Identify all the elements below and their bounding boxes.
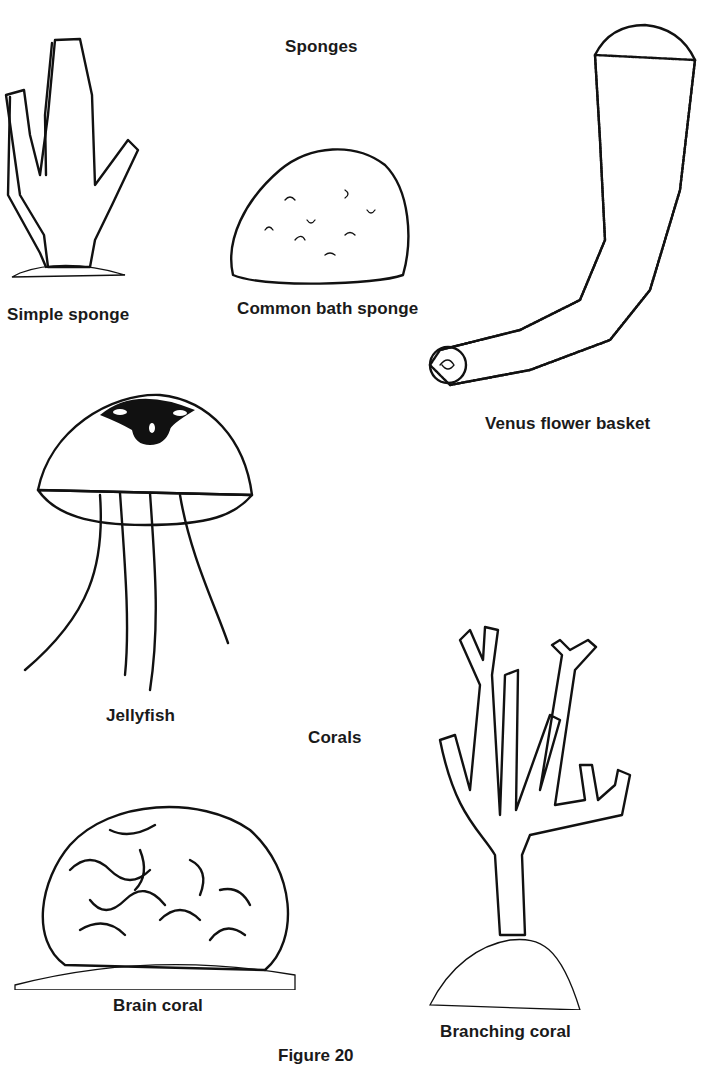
heading-corals: Corals — [308, 728, 362, 748]
simple-sponge-illustration — [0, 35, 150, 290]
heading-sponges: Sponges — [285, 37, 358, 57]
common-bath-sponge-illustration — [225, 140, 415, 290]
common-bath-sponge-label: Common bath sponge — [237, 299, 418, 319]
figure-caption: Figure 20 — [278, 1046, 354, 1066]
brain-coral-label: Brain coral — [113, 996, 203, 1016]
simple-sponge-label: Simple sponge — [7, 305, 129, 325]
branching-coral-label: Branching coral — [440, 1022, 571, 1042]
jellyfish-label: Jellyfish — [106, 706, 175, 726]
branching-coral-illustration — [420, 615, 640, 1010]
venus-flower-basket-illustration — [410, 20, 700, 400]
jellyfish-illustration — [20, 385, 260, 695]
brain-coral-illustration — [10, 790, 300, 990]
venus-flower-basket-label: Venus flower basket — [485, 414, 650, 434]
